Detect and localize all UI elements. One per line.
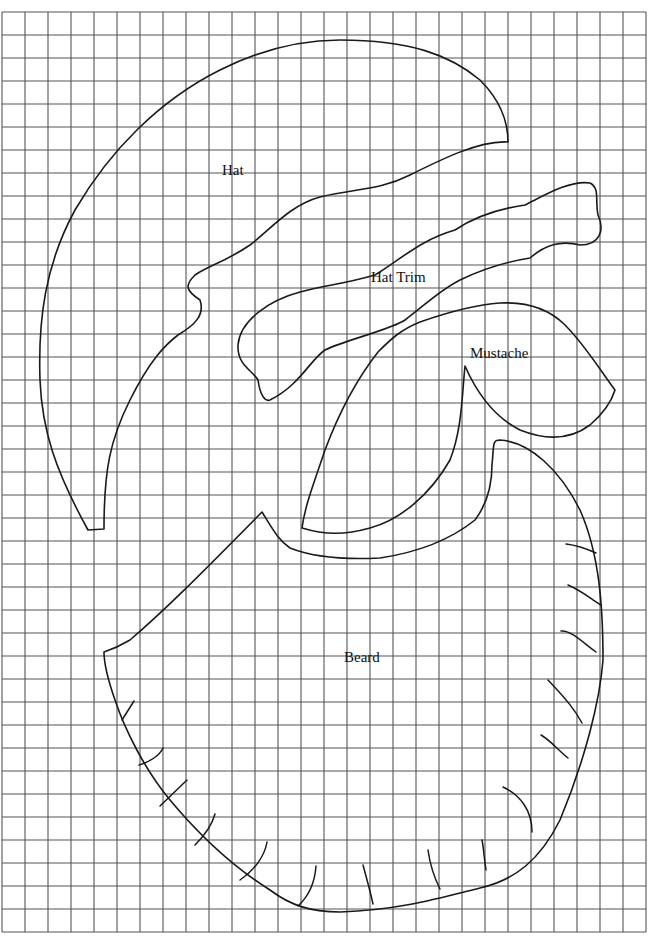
hat-trim-label: Hat Trim [371,269,426,285]
hat-label: Hat [222,162,244,178]
pattern-sheet: Hat Hat Trim Mustache Beard [0,0,650,946]
mustache-label: Mustache [470,345,529,361]
beard-label: Beard [344,649,380,665]
hat-trim-outline [238,183,601,401]
grid-lines [2,12,646,932]
hat-outline [40,40,508,530]
mustache-outline [302,303,615,533]
beard-outline [104,440,603,912]
